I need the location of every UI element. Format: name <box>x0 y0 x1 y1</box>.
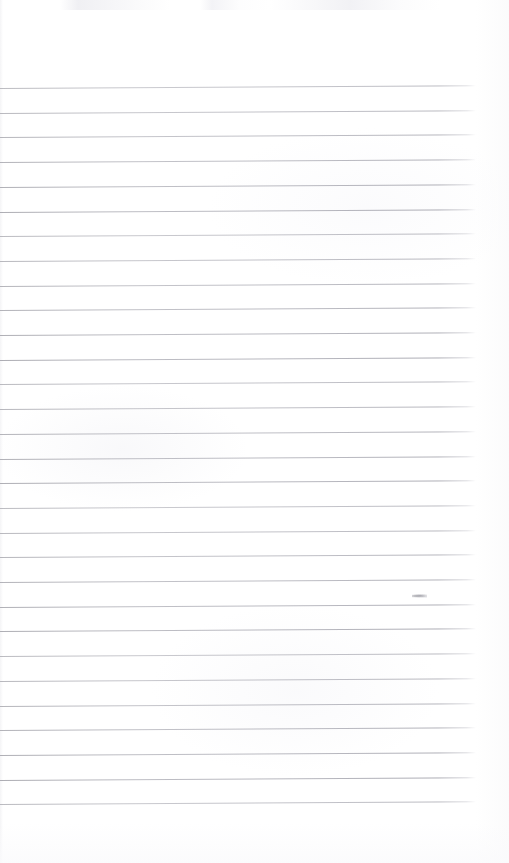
rule-line <box>0 209 476 213</box>
rule-line <box>0 678 476 682</box>
rule-line <box>0 406 476 410</box>
rule-line <box>0 629 476 633</box>
rule-line <box>0 752 476 756</box>
rule-line <box>0 308 476 312</box>
rule-line <box>0 653 476 657</box>
rule-line <box>0 579 476 583</box>
rule-line <box>0 456 476 460</box>
rule-line <box>0 604 476 608</box>
rule-line <box>0 802 476 806</box>
rule-line <box>0 530 476 534</box>
rule-line <box>0 258 476 262</box>
rule-line <box>0 332 476 336</box>
rule-line <box>0 481 476 485</box>
ruled-writing-area <box>0 0 509 863</box>
rule-line <box>0 184 476 188</box>
rule-line <box>0 728 476 732</box>
rule-line <box>0 505 476 509</box>
rule-line <box>0 382 476 386</box>
rule-line <box>0 555 476 559</box>
rule-line <box>0 431 476 435</box>
rule-line <box>0 777 476 781</box>
rule-line <box>0 234 476 238</box>
rule-line <box>0 110 476 114</box>
scanned-page <box>0 0 509 863</box>
rule-line <box>0 85 476 89</box>
rule-line <box>0 357 476 361</box>
rule-line <box>0 703 476 707</box>
ink-smudge-artifact <box>412 594 427 598</box>
rule-line <box>0 135 476 139</box>
rule-line <box>0 159 476 163</box>
rule-line <box>0 283 476 287</box>
